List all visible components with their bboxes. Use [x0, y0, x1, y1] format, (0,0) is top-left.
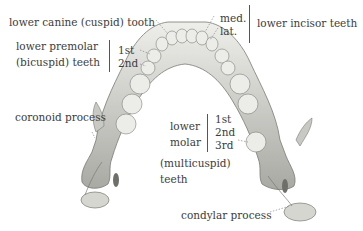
incisor-label: lower incisor teeth — [257, 17, 357, 29]
molar-label-line1: lower — [170, 120, 200, 132]
mandible-diagram: lower canine (cuspid) tooth lower premol… — [0, 0, 363, 231]
premolar-brace — [109, 40, 110, 72]
molar-3rd-label: 3rd — [215, 139, 233, 151]
canine-label: lower canine (cuspid) tooth — [9, 16, 155, 28]
molar-brace — [207, 114, 208, 152]
incisor-lat-label: lat. — [220, 25, 237, 37]
premolar-1st-label: 1st — [118, 44, 134, 56]
molar-label-line4: teeth — [160, 173, 188, 185]
condylar-label: condylar process — [181, 209, 272, 221]
incisor-med-label: med. — [220, 12, 246, 24]
premolar-2nd-label: 2nd — [118, 57, 138, 69]
premolar-label-line2: (bicuspid) teeth — [16, 56, 100, 68]
molar-label-line2: molar — [170, 136, 201, 148]
premolar-label-line1: lower premolar — [16, 40, 98, 52]
molar-2nd-label: 2nd — [215, 126, 235, 138]
molar-1st-label: 1st — [215, 113, 231, 125]
incisor-brace — [249, 5, 250, 43]
molar-label-line3: (multicuspid) — [160, 157, 231, 169]
coronoid-label: coronoid process — [15, 111, 106, 123]
